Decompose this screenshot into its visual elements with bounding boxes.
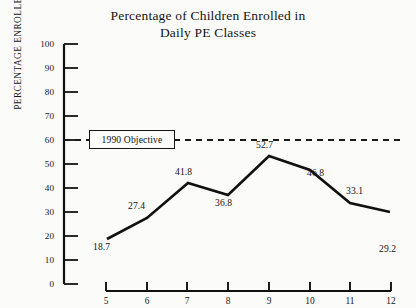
y-tick-label-100: 100 (28, 39, 54, 49)
data-point-label-36-8: 36.8 (215, 197, 232, 208)
objective-annotation-box: 1990 Objective (89, 130, 175, 149)
y-tick-label-90: 90 (28, 63, 54, 73)
objective-annotation-label: 1990 Objective (102, 134, 163, 145)
y-tick-label-60: 60 (28, 135, 54, 145)
data-point-label-27-4: 27.4 (128, 200, 145, 211)
data-point-label-29-2: 29.2 (379, 243, 396, 254)
x-tick-label-9: 9 (259, 296, 279, 306)
y-tick-label-0: 0 (28, 279, 54, 289)
y-tick-label-80: 80 (28, 87, 54, 97)
y-tick-label-20: 20 (28, 231, 54, 241)
data-point-label-52-7: 52.7 (256, 139, 273, 150)
data-point-label-18-7: 18.7 (93, 241, 110, 252)
x-axis (106, 282, 391, 291)
data-point-label-41-8: 41.8 (175, 166, 192, 177)
x-tick-label-6: 6 (137, 296, 157, 306)
y-tick-label-70: 70 (28, 111, 54, 121)
x-tick-label-8: 8 (218, 296, 238, 306)
x-axis-ticks (106, 282, 391, 291)
x-tick-label-12: 12 (381, 296, 401, 306)
x-tick-label-10: 10 (300, 296, 320, 306)
chart-container: Percentage of Children Enrolled in Daily… (0, 0, 416, 308)
y-tick-label-30: 30 (28, 207, 54, 217)
plot-area (0, 0, 416, 308)
data-point-label-33-1: 33.1 (346, 185, 363, 196)
y-axis-title: PERCENTAGE ENROLLED (13, 0, 23, 120)
y-axis-ticks (64, 44, 78, 284)
y-tick-label-50: 50 (28, 159, 54, 169)
data-line (107, 156, 390, 239)
y-tick-label-10: 10 (28, 255, 54, 265)
y-tick-label-40: 40 (28, 183, 54, 193)
y-axis (64, 44, 78, 284)
x-tick-label-7: 7 (177, 296, 197, 306)
data-point-label-46-8: 46.8 (307, 167, 324, 178)
x-tick-label-5: 5 (96, 296, 116, 306)
x-tick-label-11: 11 (340, 296, 360, 306)
